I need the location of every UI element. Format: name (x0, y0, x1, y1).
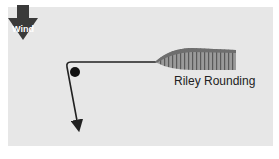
boat-label: Riley Rounding (174, 74, 255, 88)
mark-buoy (70, 67, 80, 77)
boat-icon (155, 48, 236, 70)
wind-arrow-icon (8, 5, 38, 40)
wind-label: Wind (9, 24, 37, 34)
course-line (67, 62, 156, 126)
